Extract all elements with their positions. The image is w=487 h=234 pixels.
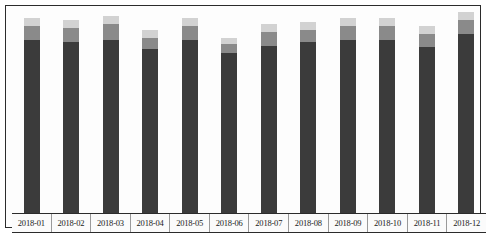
bar-segment-middle <box>103 24 119 40</box>
bar-2018-12[interactable] <box>458 12 474 213</box>
bar-segment-middle <box>142 38 158 50</box>
bar-segment-middle <box>63 28 79 42</box>
bar-segment-upper <box>340 18 356 26</box>
bar-segment-middle <box>261 32 277 46</box>
bar-segment-lower <box>300 42 316 213</box>
bar-segment-middle <box>340 26 356 40</box>
bar-segment-middle <box>458 20 474 34</box>
bar-segment-upper <box>458 12 474 20</box>
x-tick-label-2018-11: 2018-11 <box>408 214 448 232</box>
bar-segment-lower <box>103 40 119 213</box>
x-tick-label-2018-05: 2018-05 <box>170 214 210 232</box>
bar-segment-upper <box>103 16 119 24</box>
bar-segment-upper <box>300 22 316 30</box>
x-tick-label-2018-09: 2018-09 <box>329 214 369 232</box>
bar-segment-upper <box>261 24 277 32</box>
bar-segment-lower <box>458 34 474 213</box>
bar-2018-05[interactable] <box>182 18 198 213</box>
x-tick-label-2018-03: 2018-03 <box>91 214 131 232</box>
bar-segment-lower <box>261 46 277 214</box>
x-tick-label-2018-08: 2018-08 <box>289 214 329 232</box>
bar-2018-07[interactable] <box>261 24 277 213</box>
bar-segment-middle <box>24 26 40 40</box>
bar-segment-middle <box>300 30 316 42</box>
x-tick-label-2018-07: 2018-07 <box>249 214 289 232</box>
bar-2018-10[interactable] <box>379 18 395 213</box>
bar-segment-lower <box>419 47 435 213</box>
bar-2018-01[interactable] <box>24 18 40 213</box>
bar-segment-middle <box>379 26 395 40</box>
bar-2018-09[interactable] <box>340 18 356 213</box>
bar-2018-11[interactable] <box>419 26 435 213</box>
bar-2018-04[interactable] <box>142 30 158 213</box>
chart-frame: 2018-012018-022018-032018-042018-052018-… <box>5 5 481 228</box>
bar-segment-middle <box>221 44 237 54</box>
bar-segment-upper <box>142 30 158 38</box>
bar-segment-middle <box>182 26 198 40</box>
bar-segment-upper <box>24 18 40 26</box>
x-tick-label-2018-12: 2018-12 <box>447 214 486 232</box>
x-tick-label-2018-01: 2018-01 <box>12 214 52 232</box>
x-tick-label-2018-10: 2018-10 <box>368 214 408 232</box>
x-tick-label-2018-04: 2018-04 <box>131 214 171 232</box>
bar-segment-middle <box>419 34 435 48</box>
x-tick-label-2018-02: 2018-02 <box>52 214 92 232</box>
bar-segment-lower <box>63 42 79 213</box>
bar-segment-lower <box>142 49 158 213</box>
bar-segment-lower <box>379 40 395 213</box>
x-tick-label-2018-06: 2018-06 <box>210 214 250 232</box>
bar-2018-08[interactable] <box>300 22 316 213</box>
bar-segment-upper <box>379 18 395 26</box>
bar-2018-06[interactable] <box>221 38 237 213</box>
bar-segment-lower <box>221 53 237 213</box>
x-axis-label-strip: 2018-012018-022018-032018-042018-052018-… <box>12 213 486 233</box>
bar-2018-03[interactable] <box>103 16 119 213</box>
bar-segment-lower <box>182 40 198 213</box>
bar-segment-lower <box>340 40 356 213</box>
bar-2018-02[interactable] <box>63 20 79 213</box>
plot-area <box>12 12 486 213</box>
bar-segment-upper <box>182 18 198 26</box>
bar-segment-upper <box>63 20 79 28</box>
bar-segment-lower <box>24 40 40 213</box>
bar-segment-upper <box>419 26 435 34</box>
